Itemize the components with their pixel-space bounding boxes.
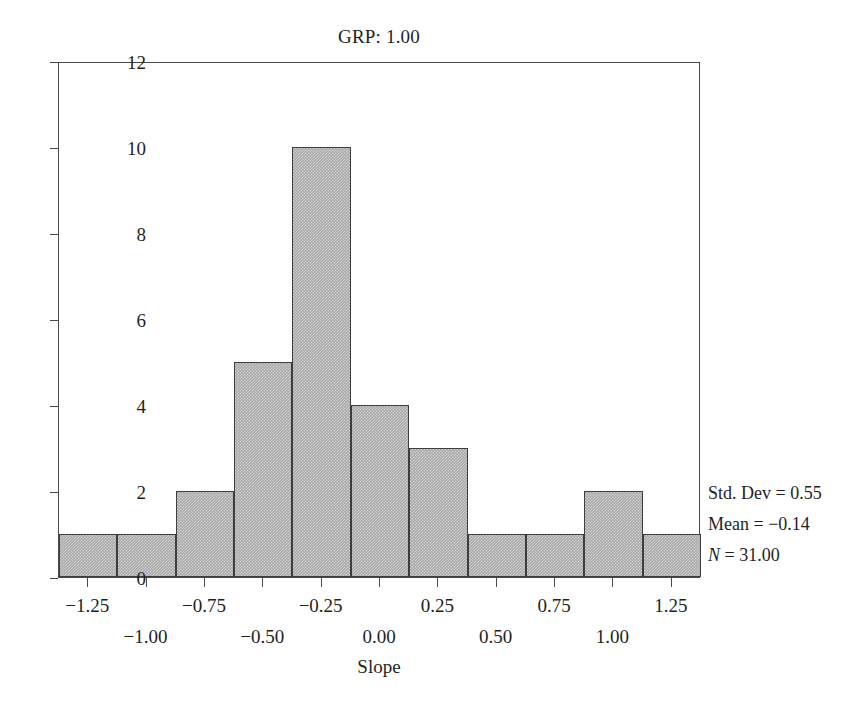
- n-value: = 31.00: [720, 545, 780, 565]
- x-tick-mark: [321, 578, 322, 587]
- x-tick-label: 0.25: [421, 596, 454, 615]
- histogram-bar: [176, 491, 234, 577]
- y-tick-mark: [50, 492, 58, 493]
- x-tick-label: −0.25: [299, 596, 343, 615]
- x-tick-mark: [87, 578, 88, 587]
- x-tick-mark: [146, 578, 147, 587]
- x-tick-mark: [379, 578, 380, 587]
- y-tick-mark: [50, 148, 58, 149]
- bars-layer: [59, 63, 699, 577]
- y-tick-mark: [50, 62, 58, 63]
- histogram-figure: GRP: 1.00 024681012 −1.25−1.00−0.75−0.50…: [0, 0, 858, 701]
- x-tick-mark: [262, 578, 263, 587]
- x-tick-label: −0.50: [240, 627, 284, 646]
- chart-title: GRP: 1.00: [58, 26, 700, 48]
- x-tick-label: 1.00: [596, 627, 629, 646]
- y-tick-mark: [50, 406, 58, 407]
- plot-area: [58, 62, 700, 578]
- x-tick-label: 0.00: [362, 627, 395, 646]
- std-dev-label: Std. Dev = 0.55: [708, 478, 822, 509]
- histogram-bar: [234, 362, 292, 577]
- histogram-bar: [468, 534, 526, 577]
- y-tick-label: 8: [137, 225, 147, 244]
- histogram-bar: [59, 534, 117, 577]
- x-tick-mark: [437, 578, 438, 587]
- x-tick-label: −1.25: [65, 596, 109, 615]
- x-axis-title: Slope: [58, 656, 700, 678]
- y-tick-mark: [50, 234, 58, 235]
- x-tick-mark: [496, 578, 497, 587]
- x-tick-label: 1.25: [654, 596, 687, 615]
- x-tick-label: 0.75: [537, 596, 570, 615]
- histogram-bar: [351, 405, 409, 577]
- histogram-bar: [643, 534, 701, 577]
- y-tick-label: 6: [137, 311, 147, 330]
- x-tick-label: 0.50: [479, 627, 512, 646]
- histogram-bar: [409, 448, 467, 577]
- histogram-bar: [292, 147, 350, 577]
- y-tick-label: 10: [127, 139, 146, 158]
- y-tick-label: 4: [137, 397, 147, 416]
- statistics-annotation: Std. Dev = 0.55 Mean = −0.14 N = 31.00: [708, 478, 822, 571]
- histogram-bar: [117, 534, 175, 577]
- x-tick-mark: [612, 578, 613, 587]
- x-tick-label: −1.00: [124, 627, 168, 646]
- y-tick-mark: [50, 578, 58, 579]
- n-label: N = 31.00: [708, 540, 822, 571]
- y-tick-label: 2: [137, 483, 147, 502]
- x-tick-mark: [671, 578, 672, 587]
- y-tick-mark: [50, 320, 58, 321]
- histogram-bar: [584, 491, 642, 577]
- y-tick-label: 12: [127, 53, 146, 72]
- histogram-bar: [526, 534, 584, 577]
- x-tick-mark: [204, 578, 205, 587]
- x-tick-label: −0.75: [182, 596, 226, 615]
- mean-label: Mean = −0.14: [708, 509, 822, 540]
- x-tick-mark: [554, 578, 555, 587]
- n-symbol: N: [708, 545, 720, 565]
